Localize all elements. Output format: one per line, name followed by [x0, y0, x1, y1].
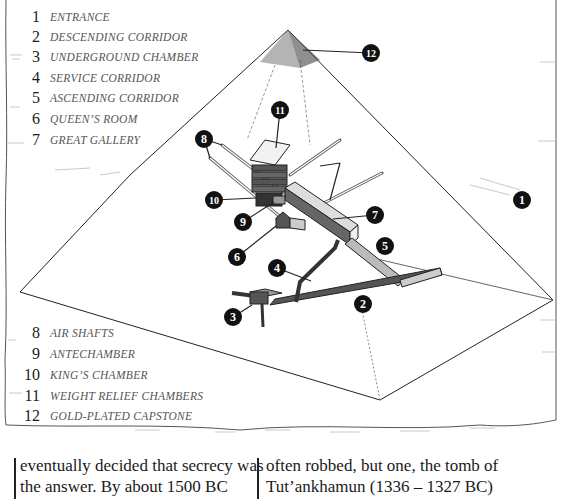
- callout-7: 7: [366, 206, 384, 224]
- svg-text:9: 9: [240, 215, 246, 229]
- queens-room: [276, 212, 305, 230]
- legend-label: Entrance: [50, 11, 110, 23]
- legend-item: 6Queen’s room: [0, 110, 40, 128]
- svg-text:7: 7: [372, 208, 378, 222]
- legend-label: Underground chamber: [50, 51, 198, 63]
- callout-3: 3: [224, 308, 242, 326]
- svg-text:4: 4: [274, 261, 280, 275]
- legend-item: 11Weight relief chambers: [0, 387, 40, 405]
- svg-text:1: 1: [519, 193, 525, 207]
- legend-number: 2: [10, 28, 40, 46]
- legend-number: 5: [10, 89, 40, 107]
- text-column-left: eventually decided that secrecy was the …: [20, 455, 264, 497]
- legend-item: 9Antechamber: [0, 345, 40, 363]
- text-line: the answer. By about 1500 BC: [20, 476, 264, 497]
- callout-11: 11: [271, 101, 289, 119]
- legend-item: 7Great gallery: [0, 131, 40, 149]
- gold-capstone: [260, 30, 320, 68]
- callout-leaders: [204, 50, 375, 317]
- text-line: Tut’ankhamun (1336 – 1327 BC): [266, 476, 498, 497]
- legend-number: 1: [10, 8, 40, 26]
- svg-text:12: 12: [366, 48, 376, 59]
- callout-4: 4: [268, 259, 286, 277]
- legend-label: Antechamber: [50, 348, 135, 360]
- legend-item: 5Ascending corridor: [0, 89, 40, 107]
- legend-label: Ascending corridor: [50, 92, 179, 104]
- callout-8: 8: [195, 130, 213, 148]
- text-line: often robbed, but one, the tomb of: [266, 455, 498, 476]
- legend-number: 12: [10, 407, 40, 425]
- callout-12: 12: [362, 44, 380, 62]
- legend-item: 4Service corridor: [0, 69, 40, 87]
- legend-label: King’s chamber: [50, 369, 148, 381]
- legend-item: 1Entrance: [0, 8, 40, 26]
- legend-item: 8Air shafts: [0, 324, 40, 342]
- legend-number: 11: [10, 387, 40, 405]
- callout-9: 9: [234, 213, 252, 231]
- legend-number: 8: [10, 324, 40, 342]
- svg-text:2: 2: [360, 297, 366, 311]
- legend-label: Great gallery: [50, 134, 140, 146]
- legend-label: Gold-plated capstone: [50, 410, 192, 422]
- legend-item: 2Descending corridor: [0, 28, 40, 46]
- pyramid-diagram-page: 123456789101112 1Entrance 2Descending co…: [0, 0, 561, 499]
- legend-label: Queen’s room: [50, 113, 138, 125]
- legend-label: Service corridor: [50, 72, 160, 84]
- legend-number: 9: [10, 345, 40, 363]
- svg-text:3: 3: [230, 310, 236, 324]
- legend-number: 7: [10, 131, 40, 149]
- callout-1: 1: [513, 191, 531, 209]
- legend-label: Descending corridor: [50, 31, 188, 43]
- legend-number: 3: [10, 48, 40, 66]
- legend-number: 4: [10, 69, 40, 87]
- legend-item: 3Underground chamber: [0, 48, 40, 66]
- text-line: eventually decided that secrecy was: [20, 455, 264, 476]
- column-rule-right: [257, 458, 259, 499]
- svg-text:11: 11: [275, 105, 284, 116]
- legend-item: 12Gold-plated capstone: [0, 407, 40, 425]
- text-column-right: often robbed, but one, the tomb of Tut’a…: [266, 455, 498, 497]
- legend-label: Air shafts: [50, 327, 114, 339]
- column-rule-left: [14, 458, 16, 499]
- legend-label: Weight relief chambers: [50, 390, 203, 402]
- svg-text:8: 8: [201, 132, 207, 146]
- svg-text:6: 6: [234, 250, 240, 264]
- callout-2: 2: [354, 295, 372, 313]
- callout-5: 5: [376, 237, 394, 255]
- legend-number: 6: [10, 110, 40, 128]
- callout-10: 10: [205, 191, 223, 209]
- svg-text:10: 10: [209, 195, 219, 206]
- callout-6: 6: [228, 248, 246, 266]
- legend-item: 10King’s chamber: [0, 366, 40, 384]
- svg-text:5: 5: [382, 239, 388, 253]
- legend-number: 10: [10, 366, 40, 384]
